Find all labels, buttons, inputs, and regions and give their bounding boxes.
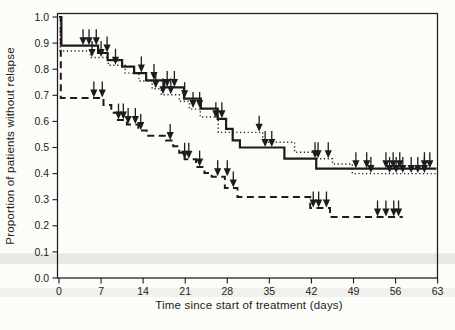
x-tick-label: 56	[390, 285, 402, 297]
x-tick-label: 42	[306, 285, 318, 297]
y-tick-label: 0.0	[34, 272, 49, 284]
x-tick-label: 14	[137, 285, 149, 297]
y-tick-label: 0.5	[34, 141, 49, 153]
x-tick-label: 63	[432, 285, 444, 297]
x-tick-label: 7	[98, 285, 104, 297]
y-tick-label: 0.9	[34, 37, 49, 49]
x-tick-label: 49	[348, 285, 360, 297]
x-tick-label: 0	[56, 285, 62, 297]
y-tick-label: 0.6	[34, 115, 49, 127]
y-tick-label: 0.8	[34, 63, 49, 75]
y-axis-label: Proportion of patients without relapse	[4, 47, 16, 244]
x-tick-label: 35	[264, 285, 276, 297]
x-tick-label: 21	[179, 285, 191, 297]
y-tick-label: 0.4	[34, 167, 49, 179]
y-tick-label: 1.0	[34, 11, 49, 23]
y-tick-label: 0.2	[34, 219, 49, 231]
scan-artifact-band	[0, 254, 455, 265]
x-tick-label: 28	[221, 285, 233, 297]
y-tick-label: 0.7	[34, 89, 49, 101]
x-axis-label: Time since start of treatment (days)	[155, 299, 343, 311]
y-tick-label: 0.1	[34, 246, 49, 258]
km-survival-chart: 1.00.90.80.70.60.50.40.30.20.10.0 071421…	[0, 0, 455, 330]
figure: 1.00.90.80.70.60.50.40.30.20.10.0 071421…	[0, 0, 455, 330]
y-tick-label: 0.3	[34, 193, 49, 205]
